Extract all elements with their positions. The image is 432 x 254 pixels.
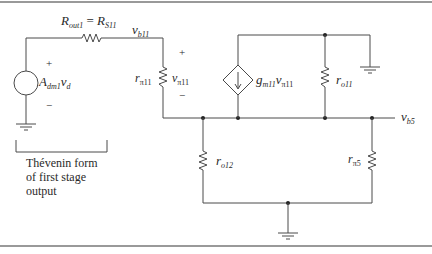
circuit-diagram: [0, 0, 432, 254]
dependent-current-source: [223, 35, 253, 118]
r-o12-resistor: [199, 118, 207, 203]
ground-icon: [16, 124, 36, 130]
v-b5-label: vb5: [401, 110, 415, 126]
plus-vpi11: +: [179, 47, 185, 58]
v-pi11-label: vπ11: [172, 72, 189, 87]
output-node-wire: [163, 116, 395, 120]
caption-line-2: of first stage: [26, 170, 98, 184]
resistor-icon: [321, 67, 329, 87]
caption: Thévenin form of first stage output: [26, 156, 98, 198]
bottom-ground-wire: [203, 201, 372, 239]
caption-bracket: [16, 140, 107, 152]
resistor-icon: [82, 34, 101, 42]
a-dm1-label: Adm1vd: [39, 75, 71, 91]
r-o11-resistor: [321, 35, 329, 118]
emitter-top-wire: [238, 33, 380, 73]
resistor-icon: [368, 151, 376, 170]
caption-line-1: Thévenin form: [26, 156, 98, 170]
r-o11-label: ro11: [336, 73, 352, 89]
v-b11-label: vb11: [132, 23, 149, 39]
ground-icon: [360, 67, 380, 73]
r-pi11-label: rπ11: [135, 72, 151, 87]
resistor-icon: [159, 67, 167, 87]
ground-icon: [278, 233, 298, 239]
minus-source: −: [46, 100, 52, 111]
r-out1-label: Rout1 = RS11: [61, 14, 116, 30]
gm11-label: gm11vπ11: [256, 73, 293, 89]
caption-line-3: output: [26, 184, 98, 198]
r-pi5-label: rπ5: [348, 153, 361, 168]
thevenin-source: [14, 38, 38, 130]
voltage-source-icon: [14, 71, 38, 95]
r-o12-label: ro12: [216, 154, 233, 170]
plus-source: +: [46, 58, 52, 69]
r-pi5-resistor: [368, 118, 376, 203]
resistor-icon: [199, 151, 207, 170]
minus-vpi11: −: [179, 90, 185, 101]
r-pi11-resistor: [159, 38, 167, 118]
